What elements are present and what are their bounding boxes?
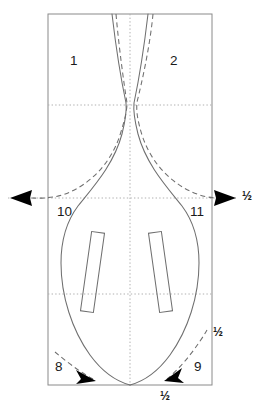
- arrow-right-waist-icon: [214, 190, 236, 206]
- region-label-1: 1: [70, 54, 78, 68]
- bounding-box: [48, 14, 212, 385]
- body-outline-solid: [61, 14, 199, 385]
- dimension-arrows: [10, 190, 236, 384]
- region-label-9: 9: [194, 360, 202, 374]
- body-outline-dashed: [18, 14, 229, 379]
- region-label-10: 10: [57, 205, 72, 219]
- sound-holes-group: [80, 231, 172, 312]
- grid-lines: [8, 14, 236, 385]
- sound-hole-right: [148, 231, 172, 312]
- region-label-8: 8: [55, 360, 63, 374]
- outline-solid-left: [61, 14, 130, 385]
- sound-hole-left: [80, 231, 104, 312]
- outline-dashed-left: [18, 14, 127, 198]
- dimension-label-right-waist: ½: [242, 190, 252, 202]
- construction-drawing-svg: [0, 0, 276, 417]
- arrow-left-waist-icon: [10, 190, 32, 206]
- dimension-label-right-lower: ½: [213, 326, 223, 338]
- diagram-canvas: 1 2 10 11 8 9 ½ ½ ½: [0, 0, 276, 417]
- outline-dashed-right: [137, 14, 229, 198]
- region-label-2: 2: [170, 54, 178, 68]
- arrow-lower-right-icon: [164, 368, 184, 383]
- region-label-11: 11: [190, 205, 204, 219]
- outline-solid-right: [130, 14, 199, 385]
- arrow-lower-left-icon: [76, 370, 96, 384]
- dimension-label-bottom: ½: [160, 390, 170, 402]
